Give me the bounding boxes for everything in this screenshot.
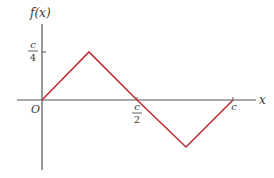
x-tick-mid-num: c (134, 101, 140, 112)
y-tick-label-den: 4 (30, 52, 36, 63)
y-axis-label: f(x) (29, 6, 51, 20)
origin-label: O (31, 103, 40, 116)
x-tick-end-label: c (231, 101, 237, 112)
chart: f(x) x O c 4 c 2 c (0, 0, 274, 178)
x-axis-label: x (259, 93, 266, 107)
x-tick-mid-den: 2 (134, 114, 140, 125)
y-tick-label-num: c (30, 39, 36, 50)
